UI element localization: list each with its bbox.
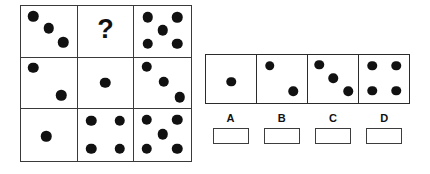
options-panel: A B C D <box>205 54 410 159</box>
matrix-cell-r3c2 <box>78 109 135 161</box>
option-c-dot-2 <box>328 73 338 83</box>
matrix-r2c1-dot-2 <box>56 90 67 101</box>
matrix-r1c3-dot-1 <box>143 12 154 23</box>
matrix-r3c1-dot-1 <box>41 131 52 142</box>
option-cell-a[interactable] <box>206 55 257 103</box>
answers-row: A B C D <box>205 112 410 159</box>
option-cell-d[interactable] <box>359 55 409 103</box>
matrix-r3c3-dot-2 <box>172 114 183 125</box>
matrix-r2c3-dot-3 <box>174 92 185 103</box>
matrix-r1c3-dot-2 <box>172 12 183 23</box>
matrix-cell-r1c2: ? <box>78 6 135 58</box>
matrix-cell-r2c1 <box>21 58 78 110</box>
matrix-r3c2-dot-4 <box>115 143 126 154</box>
option-d-dot-3 <box>367 86 377 96</box>
option-a-dot-1 <box>226 77 236 87</box>
answer-group-a: A <box>205 112 256 159</box>
answer-label-b: B <box>278 112 286 125</box>
answer-label-d: D <box>380 112 388 125</box>
answer-box-c[interactable] <box>315 128 351 144</box>
matrix-r1c3-dot-3 <box>157 25 168 36</box>
answer-group-c: C <box>308 112 359 159</box>
answer-box-a[interactable] <box>213 128 249 144</box>
matrix-r3c2-dot-3 <box>86 143 97 154</box>
matrix-r1c1-dot-3 <box>58 37 69 48</box>
matrix-r3c2-dot-2 <box>115 115 126 126</box>
answer-group-b: B <box>256 112 307 159</box>
option-b-dot-1 <box>265 61 275 71</box>
option-b-dot-2 <box>288 87 298 97</box>
option-c-dot-3 <box>343 87 353 97</box>
matrix-r2c3-dot-1 <box>142 62 153 73</box>
matrix-cell-r1c1 <box>21 6 78 58</box>
matrix-r3c3-dot-3 <box>157 129 168 140</box>
matrix-r1c3-dot-5 <box>172 39 183 50</box>
option-cell-c[interactable] <box>308 55 359 103</box>
matrix-cell-r2c3 <box>134 58 191 110</box>
matrix-r1c1-dot-1 <box>28 11 39 22</box>
option-cell-b[interactable] <box>257 55 308 103</box>
matrix-r3c2-dot-1 <box>86 115 97 126</box>
option-c-dot-1 <box>314 60 324 70</box>
matrix-cell-r3c3 <box>134 109 191 161</box>
options-row <box>205 54 410 104</box>
option-d-dot-4 <box>391 86 401 96</box>
matrix-panel: ? <box>20 5 192 162</box>
answer-box-d[interactable] <box>366 128 402 144</box>
option-d-dot-2 <box>391 61 401 71</box>
matrix-cell-r3c1 <box>21 109 78 161</box>
matrix-grid: ? <box>20 5 192 162</box>
matrix-cell-r2c2 <box>78 58 135 110</box>
answer-group-d: D <box>359 112 410 159</box>
matrix-r3c3-dot-5 <box>172 143 183 154</box>
answer-box-b[interactable] <box>264 128 300 144</box>
matrix-cell-r1c3 <box>134 6 191 58</box>
answer-label-c: C <box>329 112 337 125</box>
matrix-r2c2-dot-1 <box>100 78 111 89</box>
matrix-r1c3-dot-4 <box>143 39 154 50</box>
answer-label-a: A <box>227 112 235 125</box>
matrix-r2c3-dot-2 <box>159 77 170 88</box>
matrix-r2c1-dot-1 <box>28 63 39 74</box>
option-d-dot-1 <box>367 61 377 71</box>
matrix-r3c3-dot-4 <box>142 143 153 154</box>
question-mark: ? <box>97 17 114 44</box>
matrix-r3c3-dot-1 <box>142 114 153 125</box>
matrix-r1c1-dot-2 <box>44 23 55 34</box>
